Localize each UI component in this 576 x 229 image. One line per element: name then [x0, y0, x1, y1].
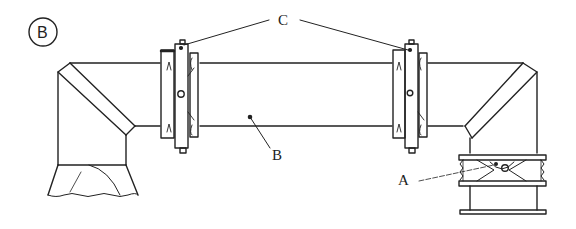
label-b: B [272, 148, 282, 163]
label-c: C [278, 13, 288, 28]
right-elbow [428, 63, 537, 153]
label-a: A [398, 173, 409, 188]
duct-assembly-drawing [0, 0, 576, 229]
straight-duct [200, 63, 392, 148]
right-coupling [393, 40, 427, 153]
label-c-leaders [184, 20, 408, 50]
left-elbow [48, 63, 160, 197]
damper-joint [419, 155, 546, 214]
panel-marker-label: B [37, 25, 48, 41]
left-coupling [161, 40, 198, 153]
